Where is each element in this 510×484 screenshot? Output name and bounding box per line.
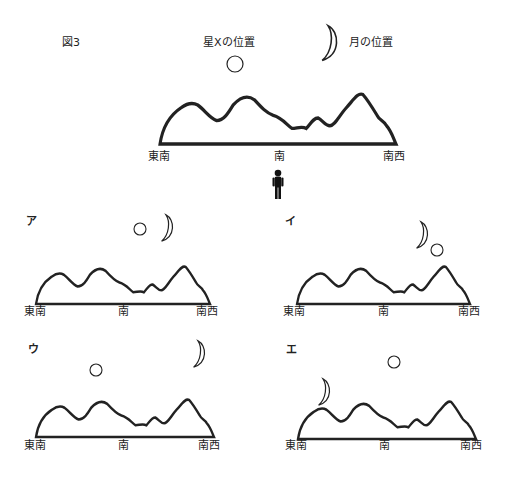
main-mountain-silhouette bbox=[160, 94, 396, 144]
option-a-moon-icon bbox=[162, 215, 173, 241]
option-i-star-icon bbox=[431, 244, 443, 256]
option-u-moon-icon bbox=[194, 341, 205, 367]
option-i-mountain bbox=[297, 267, 470, 304]
option-u-mountain bbox=[36, 400, 214, 437]
main-star-icon bbox=[227, 56, 243, 72]
option-e-mountain bbox=[298, 402, 476, 439]
option-u-panel bbox=[36, 341, 214, 437]
main-moon-icon bbox=[322, 26, 336, 61]
option-a-mountain bbox=[36, 267, 210, 304]
option-u-star-icon bbox=[90, 364, 102, 376]
diagram-canvas bbox=[0, 0, 510, 484]
option-e-star-icon bbox=[388, 356, 400, 368]
option-i-panel bbox=[297, 222, 470, 304]
option-a-panel bbox=[36, 215, 210, 304]
observer-person-icon bbox=[273, 170, 284, 199]
option-i-moon-icon bbox=[417, 222, 428, 248]
option-e-panel bbox=[298, 356, 476, 439]
option-e-moon-icon bbox=[319, 379, 330, 405]
option-a-star-icon bbox=[134, 223, 146, 235]
